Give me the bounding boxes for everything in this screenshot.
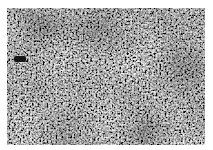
speckle-image (7, 8, 205, 145)
dark-blob (14, 56, 26, 62)
noise-texture (7, 8, 205, 145)
